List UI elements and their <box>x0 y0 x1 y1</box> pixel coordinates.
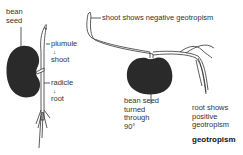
shoot-label: shoot <box>51 56 69 65</box>
root-annotation: root shows positive geotropism <box>192 104 229 130</box>
geotropism-diagram <box>0 0 243 155</box>
left-seed-label: bean seed <box>6 8 23 25</box>
shoot-annotation: shoot shows negative geotropism <box>102 14 213 23</box>
root-label: root <box>51 95 64 104</box>
left-seed-label-line2: seed <box>6 17 23 26</box>
turned-seed-label: bean seed turned through 90° <box>124 97 159 131</box>
left-bean-seed <box>7 27 41 97</box>
root-annotation-line3: geotropism <box>192 121 229 130</box>
diagram-caption: geotropism <box>192 136 236 145</box>
turned-seed-label-line4: 90° <box>124 123 159 132</box>
